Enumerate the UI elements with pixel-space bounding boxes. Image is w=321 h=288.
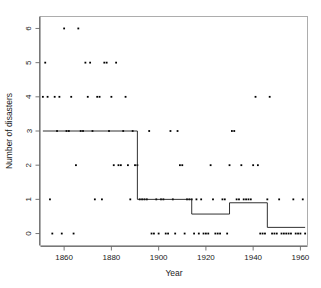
data-point — [165, 233, 167, 235]
data-point — [193, 233, 195, 235]
chart-figure: 186018801900192019401960 Year 0123456 Nu… — [0, 0, 321, 288]
x-axis-title: Year — [165, 268, 182, 278]
y-tick-label: 1 — [25, 197, 34, 202]
data-point — [198, 233, 200, 235]
data-point — [233, 130, 235, 132]
data-point — [113, 164, 115, 166]
data-point — [264, 233, 266, 235]
chart-background — [0, 0, 321, 288]
data-point — [44, 62, 46, 64]
data-point — [153, 233, 155, 235]
data-point — [96, 96, 98, 98]
data-point — [89, 62, 91, 64]
data-point — [210, 164, 212, 166]
data-point — [259, 233, 261, 235]
data-point — [278, 198, 280, 200]
data-point — [47, 96, 49, 98]
data-point — [184, 233, 186, 235]
data-point — [129, 198, 131, 200]
data-point — [219, 233, 221, 235]
data-point — [238, 198, 240, 200]
x-tick-label: 1920 — [197, 253, 215, 262]
data-point — [257, 164, 259, 166]
data-point — [110, 96, 112, 98]
data-point — [115, 62, 117, 64]
data-point — [179, 164, 181, 166]
data-point — [61, 233, 63, 235]
data-point — [101, 198, 103, 200]
x-tick-label: 1860 — [55, 253, 73, 262]
data-point — [203, 233, 205, 235]
data-point — [224, 198, 226, 200]
data-point — [49, 198, 51, 200]
data-point — [181, 164, 183, 166]
data-point — [252, 164, 254, 166]
data-point — [214, 233, 216, 235]
disasters-scatter-chart: 186018801900192019401960 Year 0123456 Nu… — [0, 0, 321, 288]
y-tick-label: 6 — [25, 26, 34, 31]
data-point — [295, 233, 297, 235]
data-point — [248, 198, 250, 200]
data-point — [262, 233, 264, 235]
data-point — [177, 130, 179, 132]
data-point — [285, 233, 287, 235]
x-tick-label: 1880 — [102, 253, 120, 262]
data-point — [54, 96, 56, 98]
data-point — [250, 198, 252, 200]
data-point — [226, 233, 228, 235]
data-point — [99, 96, 101, 98]
data-point — [94, 198, 96, 200]
data-point — [170, 130, 172, 132]
x-tick-label: 1960 — [292, 253, 310, 262]
data-point — [106, 62, 108, 64]
x-tick-label: 1900 — [150, 253, 168, 262]
data-point — [84, 62, 86, 64]
data-point — [151, 233, 153, 235]
y-tick-label: 3 — [25, 128, 34, 133]
data-point — [77, 28, 79, 30]
data-point — [297, 233, 299, 235]
data-point — [240, 164, 242, 166]
data-point — [134, 164, 136, 166]
data-point — [196, 198, 198, 200]
data-point — [274, 233, 276, 235]
data-point — [207, 233, 209, 235]
y-axis-title: Number of disasters — [4, 93, 14, 169]
data-point — [103, 62, 105, 64]
x-tick-label: 1940 — [244, 253, 262, 262]
data-point — [300, 233, 302, 235]
data-point — [288, 233, 290, 235]
data-point — [231, 130, 233, 132]
data-point — [271, 233, 273, 235]
data-point — [292, 198, 294, 200]
data-point — [118, 164, 120, 166]
data-point — [51, 233, 53, 235]
data-point — [290, 233, 292, 235]
data-point — [174, 233, 176, 235]
data-point — [212, 198, 214, 200]
data-point — [120, 164, 122, 166]
data-point — [266, 198, 268, 200]
data-point — [127, 164, 129, 166]
data-point — [243, 198, 245, 200]
data-point — [304, 233, 306, 235]
data-point — [281, 233, 283, 235]
data-point — [269, 96, 271, 98]
y-tick-label: 2 — [25, 162, 34, 167]
data-point — [245, 198, 247, 200]
data-point — [70, 96, 72, 98]
data-point — [205, 233, 207, 235]
y-tick-label: 0 — [25, 231, 34, 236]
data-point — [283, 233, 285, 235]
data-point — [158, 233, 160, 235]
data-point — [167, 233, 169, 235]
data-point — [276, 233, 278, 235]
data-point — [75, 164, 77, 166]
data-point — [59, 96, 61, 98]
y-tick-label: 4 — [25, 94, 34, 99]
data-point — [217, 233, 219, 235]
data-point — [236, 198, 238, 200]
data-point — [200, 198, 202, 200]
data-point — [63, 28, 65, 30]
y-tick-label: 5 — [25, 60, 34, 65]
